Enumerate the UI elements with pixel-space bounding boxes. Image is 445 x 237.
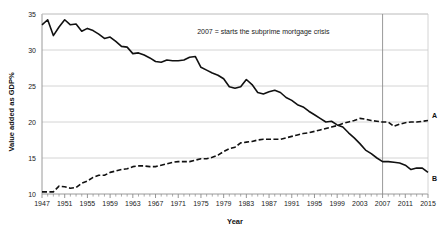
annotation-layer: 2007 = starts the subprime mortgage cris… [197, 14, 382, 194]
series-line-B [42, 20, 428, 173]
x-tick-label-1999: 1999 [329, 200, 345, 207]
x-tick-label-1995: 1995 [307, 200, 323, 207]
x-tick-label-1947: 1947 [34, 200, 50, 207]
y-tick-label-25: 25 [28, 83, 36, 90]
series-end-labels: AB [432, 112, 437, 183]
x-tick-label-1979: 1979 [216, 200, 232, 207]
x-tick-label-1959: 1959 [102, 200, 118, 207]
y-tick-label-10: 10 [28, 191, 36, 198]
y-tick-label-20: 20 [28, 119, 36, 126]
subprime-crisis-note: 2007 = starts the subprime mortgage cris… [197, 28, 330, 36]
x-axis-title: Year [227, 217, 243, 226]
line-chart: 101520253035 194719511955195919631967197… [0, 0, 445, 237]
x-tick-label-1983: 1983 [239, 200, 255, 207]
x-tick-label-1963: 1963 [125, 200, 141, 207]
x-tick-label-2003: 2003 [352, 200, 368, 207]
series-label-B: B [432, 175, 437, 182]
x-tick-label-2011: 2011 [398, 200, 413, 207]
x-tick-label-1991: 1991 [284, 200, 300, 207]
x-tick-label-1971: 1971 [170, 200, 186, 207]
series-layer [42, 20, 428, 192]
y-axis-title: Value added as GDP% [7, 72, 16, 152]
series-line-A [42, 118, 428, 191]
y-tick-labels: 101520253035 [28, 11, 36, 198]
x-tick-labels: 1947195119551959196319671971197519791983… [34, 200, 436, 207]
x-tick-label-1955: 1955 [80, 200, 96, 207]
series-label-A: A [432, 112, 437, 119]
x-tick-label-1975: 1975 [193, 200, 209, 207]
x-tick-label-2007: 2007 [375, 200, 391, 207]
plot-frame [42, 14, 428, 194]
y-tick-label-30: 30 [28, 47, 36, 54]
x-tick-label-1951: 1951 [57, 200, 73, 207]
y-tick-label-15: 15 [28, 155, 36, 162]
y-tick-label-35: 35 [28, 11, 36, 18]
chart-container: 101520253035 194719511955195919631967197… [0, 0, 445, 237]
x-tick-label-1987: 1987 [261, 200, 277, 207]
x-tick-label-1967: 1967 [148, 200, 164, 207]
x-tick-marks [42, 194, 428, 198]
x-tick-label-2015: 2015 [420, 200, 436, 207]
